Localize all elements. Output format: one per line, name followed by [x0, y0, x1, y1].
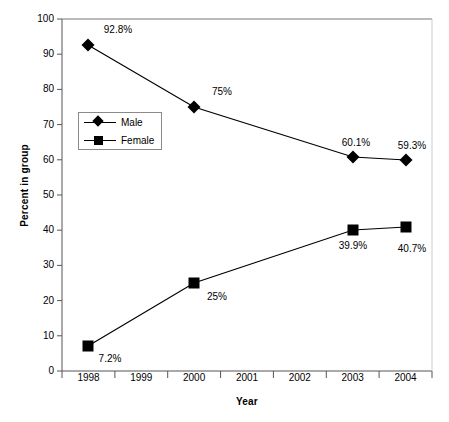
- data-label-male-2000: 75%: [192, 86, 252, 97]
- x-tick-label: 1999: [113, 372, 169, 383]
- data-label-male-1998: 92.8%: [88, 24, 148, 35]
- x-tick-label: 2003: [325, 372, 381, 383]
- data-label-female-2004: 40.7%: [382, 243, 442, 254]
- y-axis-title: Percent in group: [19, 116, 30, 256]
- chart-figure: 100 90 80 70 60 50 40 30 20 10 0 1998 19…: [0, 0, 449, 422]
- diamond-marker-icon: [92, 115, 103, 126]
- legend-item-male: Male: [79, 113, 163, 132]
- x-axis-tick-labels: 1998 1999 2000 2001 2002 2003 2004: [0, 0, 449, 422]
- x-tick-label: 2000: [166, 372, 222, 383]
- x-tick-label: 1998: [61, 372, 117, 383]
- square-marker-icon: [94, 136, 103, 145]
- legend-item-female: Female: [79, 131, 163, 150]
- legend-label-male: Male: [121, 117, 143, 128]
- legend-label-female: Female: [121, 135, 154, 146]
- data-label-female-2000: 25%: [187, 291, 247, 302]
- x-axis-title: Year: [62, 396, 432, 407]
- legend: Male Female: [78, 112, 162, 150]
- figure-caption: [150, 414, 449, 422]
- data-label-male-2003: 60.1%: [326, 137, 386, 148]
- data-label-male-2004: 59.3%: [382, 140, 442, 151]
- data-label-female-2003: 39.9%: [323, 240, 383, 251]
- x-tick-label: 2001: [219, 372, 275, 383]
- data-label-female-1998: 7.2%: [80, 353, 140, 364]
- x-tick-label: 2002: [272, 372, 328, 383]
- x-tick-label: 2004: [378, 372, 434, 383]
